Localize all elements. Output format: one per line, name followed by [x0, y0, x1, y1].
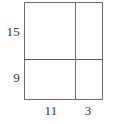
height-label-bottom: 9 — [0, 71, 20, 84]
diagram-canvas: 15 9 11 3 — [0, 0, 114, 124]
width-label-right: 3 — [78, 104, 98, 117]
horizontal-divider-line — [24, 59, 103, 60]
outer-rectangle — [24, 2, 103, 100]
width-label-left: 11 — [38, 104, 64, 117]
height-label-top: 15 — [0, 25, 20, 38]
area-model-figure: 15 9 11 3 — [0, 0, 114, 124]
vertical-divider-line — [75, 2, 76, 100]
